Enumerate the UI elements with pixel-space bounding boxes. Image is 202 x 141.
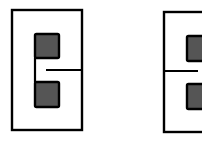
right-figure-square-2	[187, 84, 202, 109]
left-figure-square-2	[35, 82, 59, 107]
right-figure-square-1	[187, 36, 202, 61]
diagram-canvas	[0, 0, 202, 141]
left-figure-square-1	[35, 34, 59, 58]
